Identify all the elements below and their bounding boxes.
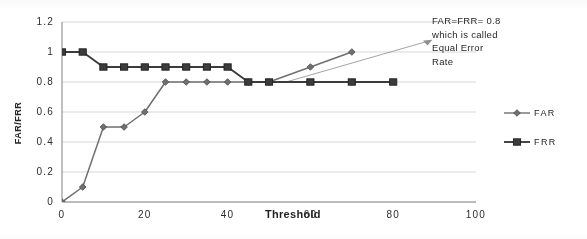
data-point: [79, 49, 86, 55]
data-point: [162, 64, 169, 70]
x-tick-label: 40: [208, 209, 248, 220]
y-tick-label: 0.8: [14, 76, 54, 87]
gridlines: [62, 22, 476, 202]
y-tick-label: 1.2: [14, 16, 54, 27]
annotation-line-3: Equal Error: [432, 41, 582, 55]
series-far: [59, 49, 355, 206]
data-point: [100, 64, 107, 70]
data-point: [183, 64, 190, 70]
data-point: [204, 79, 211, 86]
data-point: [224, 64, 231, 70]
data-point: [307, 79, 314, 85]
x-tick-label: 0: [42, 209, 82, 220]
data-point: [245, 79, 252, 85]
far-frr-line-chart: FAR/FRR Threshold 00.20.40.60.811.2 0204…: [0, 0, 587, 239]
data-point: [58, 49, 65, 55]
data-point: [265, 79, 272, 85]
data-point: [307, 64, 314, 71]
data-point: [390, 79, 397, 85]
data-point: [224, 79, 231, 86]
y-tick-label: 0.6: [14, 106, 54, 117]
x-tick-label: 100: [456, 209, 496, 220]
x-tick-label: 60: [290, 209, 330, 220]
series-layer: [58, 49, 396, 206]
annotation-line-2: which is called: [432, 28, 582, 42]
annotation-line-1: FAR=FRR= 0.8: [432, 14, 582, 28]
data-point: [100, 124, 107, 131]
y-tick-label: 0: [14, 196, 54, 207]
legend-glyphs: [504, 110, 530, 146]
annotation-leader-line: [286, 40, 432, 82]
legend-marker-far: [514, 110, 521, 117]
data-point: [183, 79, 190, 86]
y-tick-label: 0.4: [14, 136, 54, 147]
annotation-line-4: Rate: [432, 55, 582, 69]
data-point: [141, 64, 148, 70]
legend-item-frr-label: FRR: [534, 137, 557, 147]
data-point: [349, 49, 356, 56]
data-point: [203, 64, 210, 70]
x-tick-label: 20: [125, 209, 165, 220]
y-tick-label: 1: [14, 46, 54, 57]
legend-marker-frr: [513, 139, 520, 145]
equal-error-rate-annotation: FAR=FRR= 0.8 which is called Equal Error…: [432, 14, 582, 68]
legend-item-far-label: FAR: [534, 108, 556, 118]
x-tick-label: 80: [373, 209, 413, 220]
data-point: [348, 79, 355, 85]
data-point: [121, 64, 128, 70]
y-tick-label: 0.2: [14, 166, 54, 177]
